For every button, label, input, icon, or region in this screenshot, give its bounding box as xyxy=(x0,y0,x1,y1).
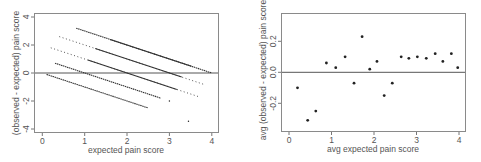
left-ytick-label: 2 xyxy=(21,42,31,47)
right-y-axis-label: avg (observed - expected) pain score xyxy=(258,0,268,140)
data-point xyxy=(400,55,403,58)
left-ytick-label: -4 xyxy=(21,125,31,133)
data-point xyxy=(325,62,328,65)
data-point xyxy=(334,66,337,69)
data-point xyxy=(353,82,356,85)
right-plot: 0.2 0.0 -0.2 avg (observed - expected) p… xyxy=(258,0,466,154)
left-ytick-label: 4 xyxy=(21,14,31,19)
data-point xyxy=(450,52,453,55)
right-xtick-label: 4 xyxy=(457,135,462,145)
right-scatter-points xyxy=(296,35,459,122)
data-point xyxy=(376,60,379,63)
left-ytick-label: 0 xyxy=(21,70,31,75)
left-x-axis: 0 1 2 3 4 expected pain score xyxy=(40,133,215,155)
data-point xyxy=(391,82,394,85)
data-point xyxy=(314,110,317,113)
data-point xyxy=(306,119,309,122)
data-point xyxy=(383,94,386,97)
data-point xyxy=(441,60,444,63)
figure-canvas: 4 2 0 -2 -4 (observed - expected) pain s… xyxy=(0,0,481,162)
data-point xyxy=(296,86,299,89)
outlier-point xyxy=(169,100,170,101)
right-xtick-label: 0 xyxy=(287,135,292,145)
residual-band-dense xyxy=(110,39,191,66)
data-point xyxy=(416,55,419,58)
left-xtick-label: 4 xyxy=(209,136,214,146)
data-point xyxy=(344,55,347,58)
left-xtick-label: 0 xyxy=(40,136,45,146)
left-residual-bands xyxy=(47,28,212,108)
left-ytick-label: -2 xyxy=(21,97,31,105)
data-point xyxy=(407,57,410,60)
residual-band xyxy=(55,63,161,98)
left-y-axis: 4 2 0 -2 -4 (observed - expected) pain s… xyxy=(11,11,34,136)
right-ytick-label: 0.2 xyxy=(268,35,278,47)
right-y-axis: 0.2 0.0 -0.2 avg (observed - expected) p… xyxy=(258,0,281,140)
data-point xyxy=(456,66,459,69)
data-point xyxy=(425,57,428,60)
right-x-axis: 0 1 2 3 4 avg expected pain score xyxy=(287,132,462,154)
left-outlier-points xyxy=(169,100,189,122)
left-xtick-label: 1 xyxy=(82,136,87,146)
left-plot: 4 2 0 -2 -4 (observed - expected) pain s… xyxy=(11,11,219,155)
right-x-axis-label: avg expected pain score xyxy=(327,144,419,154)
left-xtick-label: 3 xyxy=(167,136,172,146)
residual-band-dense xyxy=(88,60,177,89)
outlier-point xyxy=(188,121,189,122)
right-ytick-label: 0.0 xyxy=(268,66,278,78)
left-y-axis-label: (observed - expected) pain score xyxy=(11,11,21,136)
data-point xyxy=(434,52,437,55)
data-point xyxy=(361,35,364,38)
left-x-axis-label: expected pain score xyxy=(88,145,164,155)
residual-band xyxy=(47,74,149,108)
data-point xyxy=(368,68,371,71)
right-ytick-label: -0.2 xyxy=(268,96,278,111)
